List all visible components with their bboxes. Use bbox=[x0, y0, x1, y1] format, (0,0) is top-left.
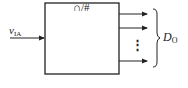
input-subscript: IA bbox=[14, 30, 21, 38]
output-brace bbox=[153, 9, 160, 67]
output-subscript: O bbox=[172, 36, 178, 45]
block-label: ∩/# bbox=[73, 1, 90, 13]
adc-block-diagram bbox=[0, 0, 188, 88]
input-label: vIA bbox=[9, 24, 21, 38]
ellipsis: ⋮ bbox=[131, 37, 144, 53]
output-symbol: D bbox=[163, 30, 172, 44]
output-label: DO bbox=[163, 30, 177, 45]
converter-block bbox=[45, 3, 119, 74]
